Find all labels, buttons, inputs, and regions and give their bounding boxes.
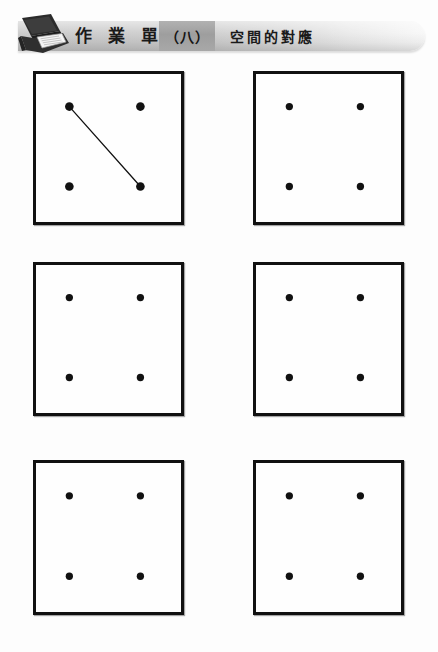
dot-top-right[interactable] <box>137 492 144 499</box>
answer-box-middle-right[interactable] <box>253 262 404 416</box>
dot-bottom-right[interactable] <box>137 374 144 381</box>
dot-bottom-right[interactable] <box>357 183 364 190</box>
dot-top-left[interactable] <box>286 103 293 110</box>
answer-box-top-right[interactable] <box>253 71 404 225</box>
dot-bottom-right[interactable] <box>136 182 145 191</box>
dot-pattern-canvas <box>256 463 401 612</box>
dot-top-right[interactable] <box>357 103 364 110</box>
dot-top-left[interactable] <box>66 294 73 301</box>
answer-box-bottom-right[interactable] <box>253 460 404 615</box>
dot-top-right[interactable] <box>137 294 144 301</box>
dot-top-right[interactable] <box>136 102 145 111</box>
example-box-top-left[interactable] <box>33 71 184 225</box>
dot-top-right[interactable] <box>357 294 364 301</box>
dot-bottom-left[interactable] <box>66 374 73 381</box>
answer-box-bottom-left[interactable] <box>33 460 184 615</box>
dot-bottom-right[interactable] <box>137 573 144 580</box>
dot-bottom-right[interactable] <box>357 374 364 381</box>
dot-bottom-left[interactable] <box>65 182 74 191</box>
puzzle-box-grid <box>0 0 438 652</box>
dot-pattern-canvas <box>256 74 401 222</box>
dot-top-left[interactable] <box>66 492 73 499</box>
dot-bottom-left[interactable] <box>286 573 293 580</box>
dot-bottom-left[interactable] <box>66 573 73 580</box>
dot-pattern-canvas <box>36 463 181 612</box>
answer-box-middle-left[interactable] <box>33 262 184 416</box>
dot-pattern-canvas <box>36 265 181 413</box>
dot-top-left[interactable] <box>286 492 293 499</box>
dot-pattern-canvas <box>256 265 401 413</box>
dot-top-left[interactable] <box>65 102 74 111</box>
line-top-left-to-bottom-right <box>69 107 140 187</box>
worksheet-page: 作 業 單 （八） 空間的對應 <box>0 0 438 652</box>
dot-bottom-right[interactable] <box>357 573 364 580</box>
dot-bottom-left[interactable] <box>286 374 293 381</box>
dot-pattern-canvas <box>36 74 181 222</box>
dot-top-right[interactable] <box>357 492 364 499</box>
dot-bottom-left[interactable] <box>286 183 293 190</box>
dot-top-left[interactable] <box>286 294 293 301</box>
